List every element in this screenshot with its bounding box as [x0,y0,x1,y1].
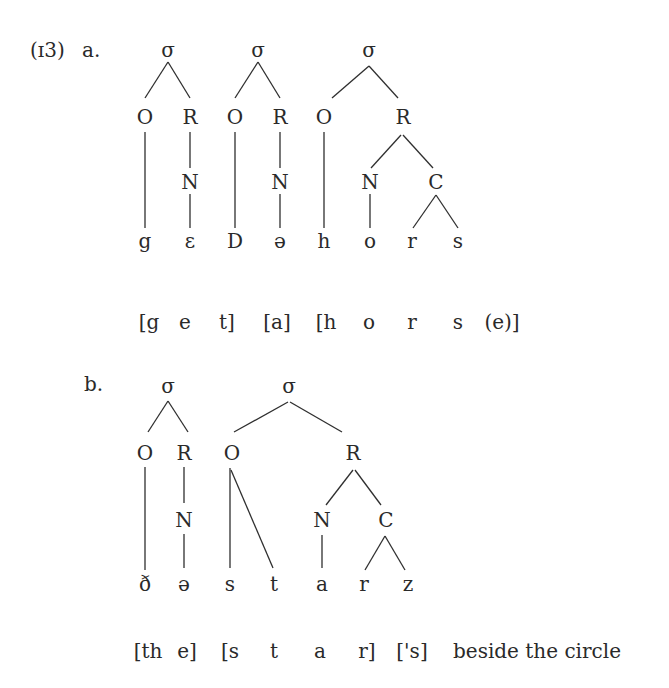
tree-b-branches [145,401,405,570]
segment: s [225,574,235,594]
orthography-token: [h [316,312,337,332]
syllable-node: σ [161,40,175,60]
orthography-token: e [179,312,191,332]
part-b-label: b. [84,374,103,394]
example-number: (ɪ3) [30,40,65,60]
part-a-label: a. [82,40,100,60]
coda-node: C [378,510,393,530]
nucleus-node: N [271,172,289,192]
onset-node: O [137,443,153,463]
orthography-token: [a] [263,312,291,332]
segment: s [453,231,463,251]
orthography-token: o [363,312,375,332]
onset-node: O [137,107,153,127]
orthography-token: r [407,312,417,332]
orthography-token: ['s] [396,641,427,661]
orthography-token: [g [139,312,160,332]
tree-a-branches [145,62,458,228]
orthography-token: (e)] [484,312,519,332]
segment: ɛ [185,231,195,251]
orthography-token: t [270,641,278,661]
onset-node: O [227,107,243,127]
segment: ə [178,574,190,594]
orthography-token: s [453,312,463,332]
segment: r [407,231,417,251]
orthography-token: [s [221,641,239,661]
gloss-text: beside the circle [453,641,621,661]
orthography-token: [th [134,641,163,661]
segment: a [316,574,328,594]
segment: h [318,231,331,251]
syllable-node: σ [161,376,175,396]
segment: ə [274,231,286,251]
onset-node: O [316,107,332,127]
orthography-token: t] [219,312,235,332]
rhyme-node: R [395,107,410,127]
rhyme-node: R [182,107,197,127]
segment: z [403,574,414,594]
nucleus-node: N [181,172,199,192]
syllable-node: σ [282,376,296,396]
rhyme-node: R [345,443,360,463]
nucleus-node: N [313,510,331,530]
nucleus-node: N [175,510,193,530]
orthography-token: a [314,641,326,661]
syllable-node: σ [362,40,376,60]
segment: g [139,231,152,251]
segment: ð [139,574,151,594]
onset-node: O [224,443,240,463]
rhyme-node: R [272,107,287,127]
segment: D [227,231,243,251]
syllable-node: σ [251,40,265,60]
segment: o [364,231,376,251]
segment: t [270,574,278,594]
nucleus-node: N [361,172,379,192]
orthography-token: r] [358,641,375,661]
rhyme-node: R [176,443,191,463]
orthography-token: e] [177,641,197,661]
syllable-tree-lines [0,0,669,688]
coda-node: C [428,172,443,192]
segment: r [359,574,369,594]
